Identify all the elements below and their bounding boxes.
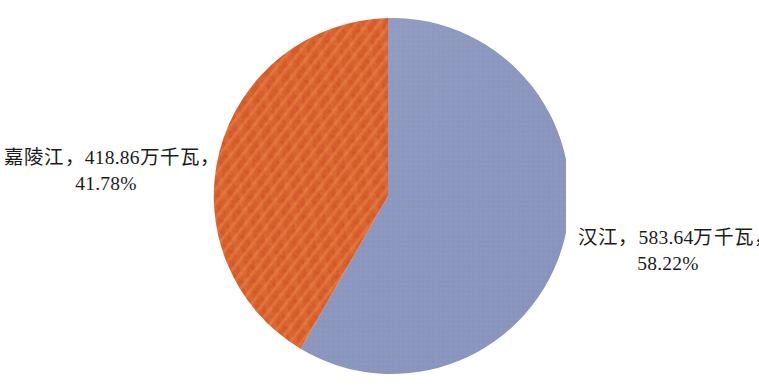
pie-label-jialingjiang: 嘉陵江，418.86万千瓦， 41.78% — [4, 145, 208, 197]
pie-label-jialingjiang-percent: 41.78% — [4, 171, 208, 197]
pie-chart — [210, 18, 566, 374]
pie-label-hanjiang: 汉江，583.64万千瓦， 58.22% — [578, 225, 758, 277]
pie-label-jialingjiang-line1: 嘉陵江，418.86万千瓦， — [4, 145, 208, 171]
pie-label-hanjiang-line1: 汉江，583.64万千瓦， — [578, 225, 758, 251]
chart-canvas: 嘉陵江，418.86万千瓦， 41.78% 汉江，583.64万千瓦， 58.2… — [0, 0, 759, 386]
pie-chart-svg — [210, 18, 566, 374]
pie-label-hanjiang-percent: 58.22% — [578, 251, 758, 277]
